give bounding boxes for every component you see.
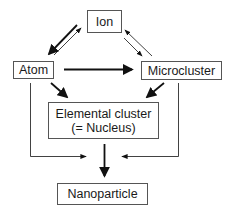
arrow-atom-to-ion [54,28,81,55]
arrow-atom-to-elemental-cluster [51,83,67,97]
node-microcluster-label: Microcluster [148,64,215,78]
arrow-ion-to-atom [49,25,77,54]
nucleation-flow-diagram: Ion Atom Microcluster Elemental cluster … [0,0,236,214]
node-ion: Ion [87,10,122,33]
node-nanoparticle: Nanoparticle [57,183,148,205]
node-atom: Atom [13,61,54,79]
node-elemental-cluster-label: Elemental cluster [56,107,152,121]
node-ion-label: Ion [96,15,113,29]
node-elemental-cluster: Elemental cluster (= Nucleus) [48,102,159,139]
arrow-microcluster-to-elemental-cluster [147,83,164,97]
node-elemental-cluster-sublabel: (= Nucleus) [71,121,135,135]
node-microcluster: Microcluster [141,61,222,80]
node-atom-label: Atom [19,63,48,77]
arrow-ion-to-microcluster [124,38,142,56]
node-nanoparticle-label: Nanoparticle [67,187,137,201]
